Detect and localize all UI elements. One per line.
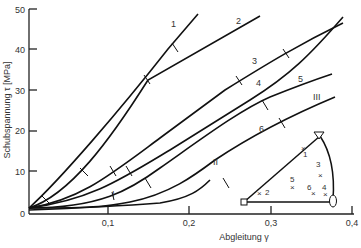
- curve-labels: 1 2 3 4 5 6 I II III: [112, 16, 321, 199]
- svg-text:×: ×: [311, 189, 316, 198]
- inset-diagram: × 1 × 2 × 3 × 4 × 5 × 6: [241, 132, 337, 207]
- svg-text:×: ×: [257, 189, 262, 198]
- svg-text:1: 1: [303, 150, 308, 159]
- svg-text:5: 5: [298, 74, 303, 84]
- svg-text:4: 4: [256, 78, 261, 88]
- inset-markers: × 1 × 2 × 3 × 4 × 5 × 6: [257, 144, 328, 199]
- svg-text:50: 50: [15, 5, 25, 15]
- stress-strain-chart: 0 10 20 30 40 50 0,1 0,2 0,3 0,4 Abgleit…: [0, 0, 361, 248]
- svg-text:10: 10: [15, 167, 25, 177]
- svg-text:2: 2: [265, 188, 270, 197]
- x-tick-labels: 0,1 0,2 0,3 0,4: [102, 218, 359, 228]
- svg-text:4: 4: [322, 183, 327, 192]
- x-axis-label: Abgleitung γ: [219, 232, 269, 242]
- svg-text:III: III: [313, 92, 321, 102]
- curves: [29, 14, 343, 210]
- y-tick-labels: 0 10 20 30 40 50: [15, 5, 25, 219]
- square-icon: [241, 199, 247, 205]
- svg-text:0,1: 0,1: [102, 218, 115, 228]
- ellipse-icon: [330, 195, 337, 207]
- svg-text:6: 6: [259, 124, 264, 134]
- svg-text:30: 30: [15, 86, 25, 96]
- svg-text:×: ×: [318, 171, 323, 180]
- y-axis-label: Schubspannung τ [MPa]: [2, 61, 12, 158]
- svg-text:0,4: 0,4: [346, 218, 359, 228]
- svg-text:6: 6: [307, 183, 312, 192]
- curve-5: [29, 74, 332, 208]
- svg-text:2: 2: [236, 16, 241, 26]
- svg-text:0,3: 0,3: [265, 218, 278, 228]
- svg-text:3: 3: [252, 56, 257, 66]
- svg-text:0: 0: [20, 209, 25, 219]
- svg-text:×: ×: [290, 183, 295, 192]
- axes: [29, 9, 354, 214]
- svg-text:3: 3: [316, 160, 321, 169]
- svg-text:0,2: 0,2: [183, 218, 196, 228]
- curve-ticks: [42, 43, 289, 204]
- svg-text:20: 20: [15, 126, 25, 136]
- svg-text:5: 5: [290, 175, 295, 184]
- svg-text:1: 1: [171, 19, 176, 29]
- svg-text:40: 40: [15, 45, 25, 55]
- triangle-icon: [314, 132, 324, 139]
- svg-text:II: II: [213, 157, 218, 167]
- curve-stage: [29, 180, 210, 210]
- svg-text:I: I: [112, 189, 115, 199]
